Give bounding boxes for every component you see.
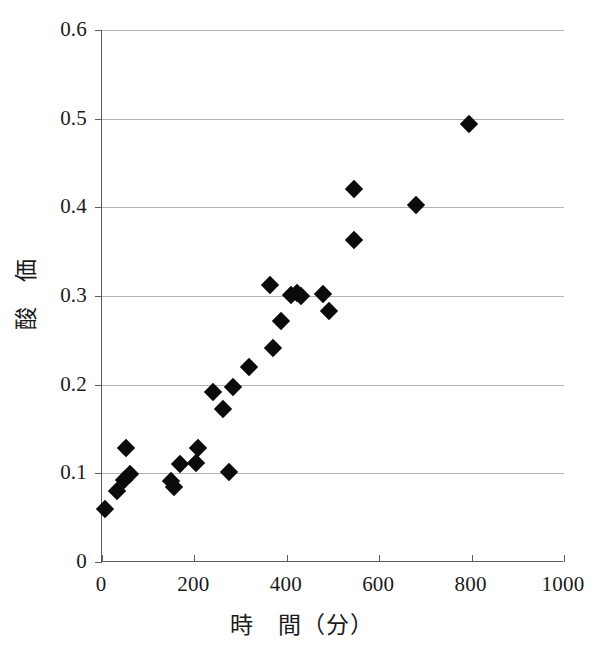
data-point	[187, 453, 205, 471]
y-tick-mark-6	[95, 30, 102, 31]
gridline-y-3	[102, 296, 564, 297]
y-tick-mark-3	[95, 296, 102, 297]
x-tick-mark-3	[379, 555, 380, 562]
data-point	[96, 500, 114, 518]
x-tick-mark-5	[564, 555, 565, 562]
x-tick-mark-4	[472, 555, 473, 562]
x-tick-mark-1	[194, 555, 195, 562]
gridline-y-6	[102, 30, 564, 31]
x-tick-mark-0	[102, 555, 103, 562]
data-point	[345, 231, 363, 249]
data-point	[189, 438, 207, 456]
y-tick-label-5: 0.5	[60, 108, 87, 129]
y-tick-mark-0	[95, 562, 102, 563]
y-tick-label-3: 0.3	[60, 285, 87, 306]
x-tick-mark-2	[287, 555, 288, 562]
gridline-y-5	[102, 119, 564, 120]
x-tick-label-5: 1000	[503, 574, 603, 595]
data-point	[261, 276, 279, 294]
data-point	[224, 378, 242, 396]
data-point	[117, 438, 135, 456]
data-point	[314, 285, 332, 303]
y-tick-mark-2	[95, 385, 102, 386]
data-point	[407, 195, 425, 213]
x-axis-title: 時 間（分）	[0, 613, 603, 639]
data-point	[460, 115, 478, 133]
data-point	[272, 312, 290, 330]
y-tick-label-6: 0.6	[60, 19, 87, 40]
y-tick-mark-5	[95, 119, 102, 120]
y-tick-mark-1	[95, 473, 102, 474]
plot-area	[101, 30, 563, 562]
data-point	[345, 180, 363, 198]
gridline-y-2	[102, 385, 564, 386]
gridline-y-4	[102, 207, 564, 208]
y-tick-label-1: 0.1	[60, 462, 87, 483]
y-axis-title: 酸 価	[14, 258, 40, 330]
data-point	[264, 339, 282, 357]
y-tick-mark-4	[95, 207, 102, 208]
y-tick-label-4: 0.4	[60, 196, 87, 217]
data-point	[214, 400, 232, 418]
data-point	[220, 463, 238, 481]
y-tick-label-2: 0.2	[60, 374, 87, 395]
data-point	[320, 302, 338, 320]
data-point	[240, 358, 258, 376]
y-tick-label-0: 0	[76, 551, 87, 572]
data-point	[171, 455, 189, 473]
scatter-chart-figure: 00.10.20.30.40.50.6 酸 価 0200400600800100…	[0, 0, 603, 660]
